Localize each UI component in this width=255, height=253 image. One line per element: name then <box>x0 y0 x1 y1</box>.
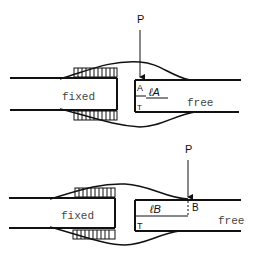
diagram-a: P A ℓA T fixed free <box>10 13 241 127</box>
clamp-bottom-hatch <box>73 230 115 239</box>
torque-label: T <box>137 103 142 112</box>
deflection-curve-top <box>50 184 188 199</box>
point-label: A <box>137 83 143 93</box>
free-label: free <box>218 215 244 227</box>
load-label: P <box>185 143 192 155</box>
diagram-b: P ℓB B T fixed free <box>9 143 244 245</box>
length-label: ℓB <box>149 203 161 215</box>
fixed-label: fixed <box>61 210 94 222</box>
length-label: ℓA <box>148 86 160 98</box>
torque-label: T <box>137 221 143 231</box>
free-label: free <box>187 97 213 109</box>
cantilever-diagrams: P A ℓA T fixed free P <box>0 0 255 253</box>
load-label: P <box>137 13 144 25</box>
point-label: B <box>192 202 199 213</box>
fixed-label: fixed <box>62 91 95 103</box>
